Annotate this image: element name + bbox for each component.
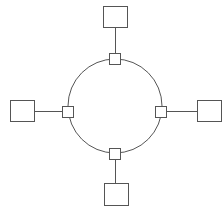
node-box-right [198, 101, 222, 122]
ring-circle [68, 59, 162, 153]
node-box-left [11, 101, 35, 122]
links-group [35, 28, 198, 184]
connector-port-top [110, 54, 121, 65]
connector-port-right [156, 107, 167, 118]
node-box-bottom [105, 184, 129, 206]
connector-port-bottom [110, 149, 121, 160]
node-box-top [104, 7, 128, 28]
ring-topology-diagram [0, 0, 224, 214]
connector-port-left [63, 107, 74, 118]
connectors-group [63, 54, 167, 160]
